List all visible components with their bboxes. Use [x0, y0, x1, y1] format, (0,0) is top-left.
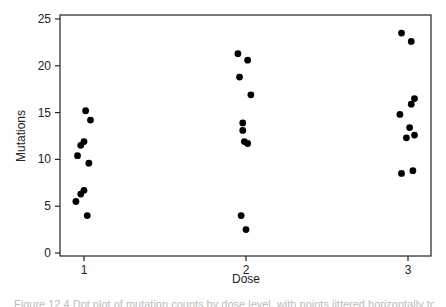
data-point: [82, 107, 89, 114]
data-point: [408, 101, 415, 108]
data-point: [411, 132, 418, 139]
data-point: [73, 198, 80, 205]
data-point: [403, 134, 410, 141]
data-point: [398, 30, 405, 37]
x-axis-label: Dose: [232, 272, 260, 286]
data-point: [238, 212, 245, 219]
y-axis: 0510152025: [38, 12, 60, 260]
data-points: [73, 30, 418, 233]
data-point: [87, 117, 94, 124]
data-point: [247, 91, 254, 98]
y-tick-label: 0: [44, 246, 51, 260]
data-point: [244, 140, 251, 147]
y-tick-label: 10: [38, 152, 52, 166]
y-axis-label: Mutations: [14, 110, 28, 162]
y-tick-label: 15: [38, 106, 52, 120]
data-point: [409, 167, 416, 174]
data-point: [77, 191, 84, 198]
x-tick-label: 1: [81, 263, 88, 277]
data-point: [398, 170, 405, 177]
y-tick-label: 20: [38, 59, 52, 73]
y-tick-label: 25: [38, 12, 52, 26]
y-tick-label: 5: [44, 199, 51, 213]
data-point: [74, 152, 81, 159]
figure-caption: Figure 12.4 Dot plot of mutation counts …: [14, 297, 434, 307]
x-tick-label: 3: [405, 263, 412, 277]
data-point: [406, 124, 413, 131]
data-point: [239, 119, 246, 126]
data-point: [244, 57, 251, 64]
data-point: [408, 38, 415, 45]
data-point: [235, 50, 242, 57]
data-point: [397, 111, 404, 118]
data-point: [85, 160, 92, 167]
plot-frame: [60, 15, 431, 256]
data-point: [236, 74, 243, 81]
data-point: [84, 212, 91, 219]
data-point: [243, 226, 250, 233]
data-point: [239, 127, 246, 134]
data-point: [77, 142, 84, 149]
